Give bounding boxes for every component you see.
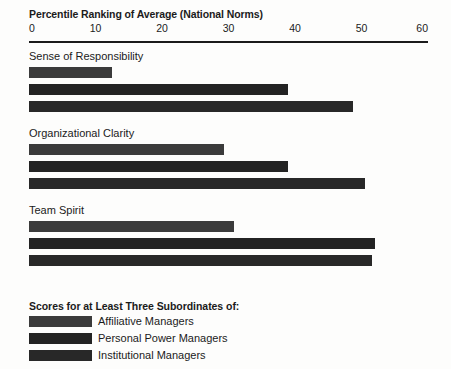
legend-swatch (29, 333, 92, 344)
legend-item: Institutional Managers (0, 349, 451, 362)
legend-item: Affiliative Managers (0, 315, 451, 328)
legend-label: Personal Power Managers (98, 332, 228, 344)
bar-row (0, 67, 451, 78)
bar-row (0, 101, 451, 112)
bars (0, 144, 451, 195)
bar (29, 221, 234, 232)
bar-row (0, 238, 451, 249)
x-axis-tick-50: 50 (356, 22, 368, 34)
chart-title: Percentile Ranking of Average (National … (29, 8, 263, 20)
bar-group-label: Sense of Responsibility (29, 50, 143, 62)
bar (29, 161, 288, 172)
x-axis-tick-40: 40 (289, 22, 301, 34)
bars (0, 67, 451, 118)
legend-title: Scores for at Least Three Subordinates o… (29, 300, 239, 312)
x-axis-tick-30: 30 (223, 22, 235, 34)
legend-label: Affiliative Managers (98, 315, 194, 327)
bar (29, 67, 112, 78)
bar-row (0, 255, 451, 266)
bar-row (0, 84, 451, 95)
legend-swatch (29, 316, 92, 327)
bar-group-label: Organizational Clarity (29, 127, 134, 139)
bar (29, 255, 372, 266)
x-axis-tick-10: 10 (90, 22, 102, 34)
bar (29, 84, 288, 95)
bar (29, 178, 365, 189)
x-axis-rule (29, 41, 428, 43)
bar-row (0, 161, 451, 172)
bar-row (0, 144, 451, 155)
bar (29, 144, 224, 155)
bars (0, 221, 451, 272)
x-axis-tick-0: 0 (29, 22, 35, 34)
chart-container: Percentile Ranking of Average (National … (0, 0, 451, 369)
bar-group-label: Team Spirit (29, 204, 84, 216)
bar (29, 101, 353, 112)
legend-item: Personal Power Managers (0, 332, 451, 345)
x-axis-tick-60: 60 (416, 22, 428, 34)
bar-row (0, 221, 451, 232)
x-axis-tick-20: 20 (156, 22, 168, 34)
legend-label: Institutional Managers (98, 349, 206, 361)
bar-row (0, 178, 451, 189)
bar (29, 238, 375, 249)
legend-items: Affiliative ManagersPersonal Power Manag… (0, 315, 451, 366)
legend-swatch (29, 350, 92, 361)
